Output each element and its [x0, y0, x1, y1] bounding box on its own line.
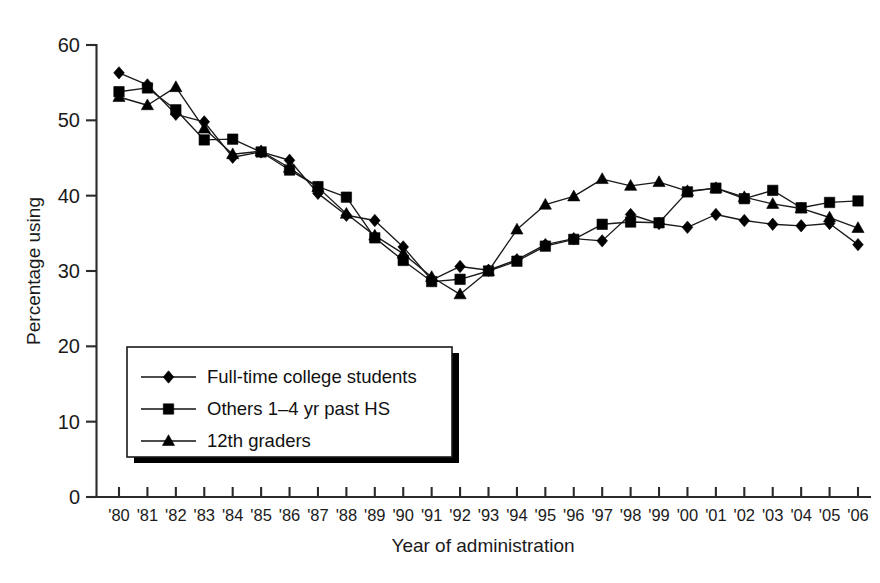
data-series: [114, 83, 863, 287]
x-axis-ticks: '80'81'82'83'84'85'86'87'88'89'90'91'92'…: [108, 487, 869, 524]
x-tick-label: '05: [819, 506, 841, 524]
x-tick-label: '85: [250, 506, 272, 524]
x-tick-label: '95: [535, 506, 557, 524]
x-tick-label: '94: [506, 506, 528, 524]
y-tick-label: 0: [69, 486, 80, 508]
data-point-marker: [596, 173, 608, 184]
x-tick-label: '01: [705, 506, 727, 524]
chart-figure: 0102030405060 Percentage using '80'81'82…: [0, 0, 880, 583]
data-point-marker: [454, 288, 466, 299]
data-point-marker: [569, 234, 579, 244]
data-point-marker: [568, 190, 580, 201]
data-point-marker: [227, 134, 237, 144]
series-line: [119, 87, 858, 294]
data-point-marker: [711, 208, 722, 220]
data-point-marker: [171, 105, 181, 115]
legend-marker-square-icon: [163, 404, 173, 414]
x-tick-label: '92: [449, 506, 471, 524]
x-tick-label: '99: [648, 506, 670, 524]
data-point-marker: [625, 217, 635, 227]
y-tick-label: 10: [58, 411, 80, 433]
x-tick-label: '96: [563, 506, 585, 524]
x-axis-title: Year of administration: [391, 535, 574, 556]
legend-label: Full-time college students: [207, 366, 417, 387]
x-tick-label: '06: [847, 506, 869, 524]
x-tick-label: '86: [279, 506, 301, 524]
data-point-marker: [653, 176, 665, 187]
x-tick-label: '88: [336, 506, 358, 524]
x-tick-label: '87: [307, 506, 329, 524]
data-point-marker: [455, 260, 466, 272]
data-point-marker: [796, 220, 807, 232]
x-tick-label: '81: [137, 506, 159, 524]
x-tick-label: '90: [392, 506, 414, 524]
y-tick-label: 60: [58, 34, 80, 56]
y-tick-label: 50: [58, 109, 80, 131]
data-point-marker: [682, 221, 693, 233]
data-point-marker: [142, 83, 152, 93]
data-point-marker: [767, 218, 778, 230]
data-series: [113, 81, 864, 299]
x-tick-label: '03: [762, 506, 784, 524]
x-tick-label: '97: [591, 506, 613, 524]
series-line: [119, 88, 858, 282]
data-point-marker: [853, 196, 863, 206]
y-axis: 0102030405060 Percentage using: [23, 34, 97, 508]
legend-label: Others 1–4 yr past HS: [207, 398, 390, 419]
x-tick-label: '02: [734, 506, 756, 524]
data-point-marker: [455, 274, 465, 284]
y-axis-title: Percentage using: [23, 197, 44, 345]
series-line: [119, 73, 858, 280]
x-tick-label: '91: [421, 506, 443, 524]
data-point-marker: [540, 241, 550, 251]
x-tick-label: '00: [677, 506, 699, 524]
x-tick-label: '84: [222, 506, 244, 524]
y-tick-label: 30: [58, 260, 80, 282]
data-point-marker: [853, 238, 864, 250]
data-point-marker: [597, 219, 607, 229]
legend-label: 12th graders: [207, 430, 311, 451]
x-tick-label: '82: [165, 506, 187, 524]
data-point-marker: [654, 218, 664, 228]
data-series-group: [113, 67, 864, 299]
line-chart: 0102030405060 Percentage using '80'81'82…: [0, 0, 880, 583]
data-point-marker: [341, 192, 351, 202]
x-tick-label: '98: [620, 506, 642, 524]
x-tick-label: '80: [108, 506, 130, 524]
x-tick-label: '89: [364, 506, 386, 524]
x-axis: '80'81'82'83'84'85'86'87'88'89'90'91'92'…: [97, 487, 871, 556]
data-point-marker: [199, 135, 209, 145]
data-point-marker: [824, 197, 834, 207]
x-tick-label: '04: [790, 506, 812, 524]
y-tick-label: 20: [58, 335, 80, 357]
data-point-marker: [739, 214, 750, 226]
data-series: [114, 67, 864, 287]
data-point-marker: [511, 223, 523, 234]
data-point-marker: [512, 256, 522, 266]
x-tick-label: '93: [478, 506, 500, 524]
data-point-marker: [170, 81, 182, 92]
data-point-marker: [114, 67, 125, 79]
chart-legend: Full-time college studentsOthers 1–4 yr …: [127, 347, 459, 463]
data-point-marker: [768, 185, 778, 195]
x-tick-label: '83: [194, 506, 216, 524]
y-tick-label: 40: [58, 185, 80, 207]
y-axis-ticks: 0102030405060: [58, 34, 97, 508]
